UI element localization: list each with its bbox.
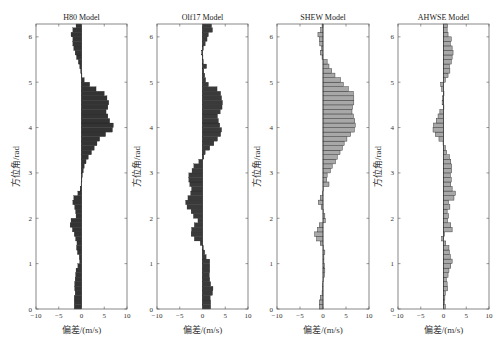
bar: [203, 109, 221, 114]
y-tick-label: 1: [270, 260, 274, 268]
bar: [82, 87, 97, 92]
bar: [76, 24, 81, 28]
bar: [203, 73, 205, 78]
bar: [192, 168, 202, 173]
bar: [194, 223, 202, 228]
bar: [188, 196, 203, 201]
bar: [441, 82, 444, 87]
bar: [444, 24, 448, 28]
bar: [444, 277, 447, 282]
bar: [433, 128, 443, 133]
y-tick-label: 5: [150, 79, 154, 87]
bar: [444, 41, 451, 46]
x-tick-label: −5: [296, 312, 304, 320]
x-tick-label: 5: [344, 312, 348, 320]
bar: [78, 60, 81, 65]
x-tick-label: 10: [245, 312, 253, 320]
y-tick-label: 6: [391, 33, 395, 41]
bar: [323, 141, 344, 146]
y-tick-label: 4: [29, 124, 33, 132]
bar: [439, 137, 444, 142]
bar: [203, 96, 222, 101]
bar: [444, 150, 447, 155]
bar: [323, 109, 352, 114]
bar: [82, 128, 113, 133]
bar: [203, 41, 206, 46]
bar: [203, 300, 211, 305]
y-tick-label: 2: [150, 215, 154, 223]
bar: [444, 255, 451, 260]
bar: [444, 218, 448, 223]
bar: [317, 236, 323, 241]
bar: [193, 214, 202, 219]
y-axis-label: 方位角/rad: [251, 146, 262, 187]
bar: [75, 50, 81, 55]
x-tick-label: −10: [31, 312, 42, 320]
x-tick-label: −5: [176, 312, 184, 320]
bar: [203, 32, 209, 37]
bar: [317, 227, 323, 232]
bar: [194, 164, 203, 169]
bar: [76, 209, 82, 214]
bar: [438, 114, 443, 119]
bar: [203, 82, 209, 87]
x-tick-label: −10: [272, 312, 283, 320]
bar: [203, 264, 210, 269]
bar: [203, 277, 210, 282]
bar: [433, 123, 443, 128]
bar: [444, 273, 449, 278]
bar: [444, 69, 450, 74]
bar: [319, 37, 323, 42]
bar: [323, 100, 354, 105]
x-axis-label: 偏差/(m/s): [183, 324, 223, 335]
x-tick-label: 5: [103, 312, 107, 320]
bar: [444, 177, 452, 182]
bar: [82, 105, 108, 110]
bar: [444, 155, 450, 160]
bar: [444, 191, 456, 196]
bar: [444, 245, 449, 250]
bar: [444, 223, 451, 228]
bar: [76, 236, 82, 241]
bar: [191, 191, 203, 196]
bar: [70, 223, 81, 228]
bar: [323, 164, 332, 169]
bar: [73, 37, 82, 42]
y-tick-label: 4: [391, 124, 395, 132]
y-tick-label: 1: [391, 260, 395, 268]
y-tick-label: 2: [391, 215, 395, 223]
bar: [323, 60, 327, 65]
panel-4: −10−505100123456AHWSE Model偏差/(m/s)方位角/r…: [372, 13, 493, 335]
y-tick-label: 5: [391, 79, 395, 87]
bar: [203, 118, 219, 123]
bar: [323, 114, 353, 119]
bar: [203, 304, 211, 309]
panel-title: AHWSE Model: [418, 13, 470, 22]
bar: [187, 205, 202, 210]
bar: [444, 187, 453, 192]
bar: [444, 209, 448, 214]
bar: [76, 55, 81, 60]
bar: [82, 141, 97, 146]
bar: [189, 177, 203, 182]
bar: [323, 132, 351, 137]
bar: [203, 100, 223, 105]
bar: [82, 123, 114, 128]
bar: [82, 91, 105, 96]
bar: [78, 191, 82, 196]
bar: [203, 24, 212, 28]
bar: [82, 146, 95, 151]
bar: [203, 255, 207, 260]
x-tick-label: −5: [417, 312, 425, 320]
bar: [323, 155, 337, 160]
bar: [192, 187, 203, 192]
bar: [71, 32, 81, 37]
bar: [323, 73, 335, 78]
bar: [203, 259, 210, 264]
x-tick-label: 0: [201, 312, 205, 320]
bar: [82, 159, 87, 164]
bar: [444, 64, 450, 69]
panel-1: −10−505100123456H80 Model偏差/(m/s)方位角/rad: [10, 13, 131, 335]
bar: [82, 82, 90, 87]
bar: [444, 37, 452, 42]
